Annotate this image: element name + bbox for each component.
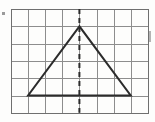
left-edge-mark	[2, 12, 5, 15]
right-edge-tick	[149, 31, 151, 42]
grid-figure	[0, 0, 155, 122]
figure-svg	[0, 0, 155, 122]
